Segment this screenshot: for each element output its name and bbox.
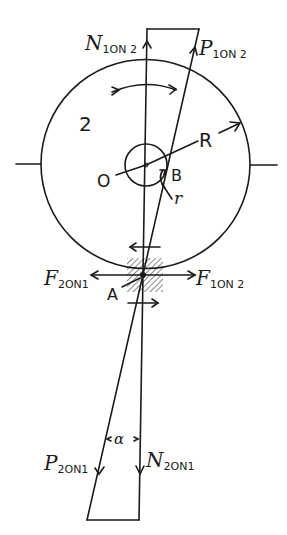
label-p1on2: P1ON 2: [198, 36, 247, 61]
label-A: A: [107, 285, 118, 304]
label-n2on1: N2ON1: [145, 448, 194, 473]
label-O: O: [97, 171, 110, 191]
label-n1on2: N1ON 2: [84, 31, 137, 56]
label-alpha: α: [114, 430, 124, 448]
label-p2on1: P2ON1: [43, 451, 88, 476]
label-B: B: [171, 166, 182, 185]
label-body-2: 2: [79, 112, 92, 136]
rotation-arrow: [112, 84, 176, 92]
label-r: r: [174, 188, 183, 208]
label-R: R: [199, 129, 212, 151]
label-f2on1: F2ON1: [43, 266, 89, 291]
force-diagram: N1ON 2 P1ON 2 2 R O B r F2ON1 F1ON 2 A α…: [0, 0, 287, 535]
label-f1on2: F1ON 2: [195, 266, 244, 291]
